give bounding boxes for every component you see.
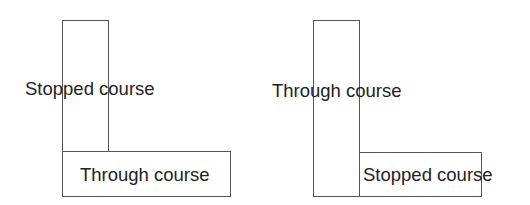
vertical-course-label: Through course	[272, 82, 402, 101]
horizontal-course-label: Stopped course	[363, 166, 493, 185]
horizontal-course-label: Through course	[80, 166, 210, 185]
vertical-course-box	[313, 20, 360, 197]
vertical-course-label: Stopped course	[25, 80, 155, 99]
